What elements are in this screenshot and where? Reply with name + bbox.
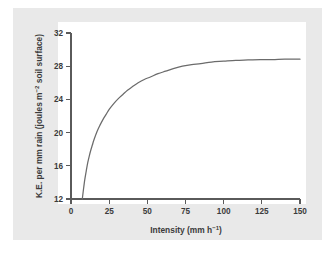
x-tick-label-125: 125 bbox=[255, 207, 269, 216]
y-axis-title: K.E. per mm rain (joules m−2 soil surfac… bbox=[34, 34, 44, 198]
x-tick-label-75: 75 bbox=[181, 207, 191, 216]
x-axis-title-main: Intensity (mm h bbox=[150, 225, 212, 235]
x-tick-label-100: 100 bbox=[217, 207, 231, 216]
y-tick-label-28: 28 bbox=[54, 62, 64, 71]
y-axis-title-part1: K.E. per mm rain (joules m bbox=[34, 92, 44, 198]
y-tick-label-20: 20 bbox=[54, 129, 64, 138]
ke-intensity-curve bbox=[82, 59, 300, 199]
x-axis-title-close: ) bbox=[219, 225, 222, 235]
data-series-group bbox=[82, 59, 300, 199]
x-tick-label-150: 150 bbox=[293, 207, 307, 216]
x-tick-label-25: 25 bbox=[105, 207, 115, 216]
x-axis: 0 25 50 75 100 125 150 bbox=[69, 199, 308, 216]
y-axis: 12 16 20 24 28 32 bbox=[54, 29, 71, 204]
y-tick-label-16: 16 bbox=[54, 162, 64, 171]
y-tick-label-24: 24 bbox=[54, 95, 64, 104]
y-axis-title-group: K.E. per mm rain (joules m−2 soil surfac… bbox=[34, 34, 44, 198]
x-axis-title: Intensity (mm h−1) bbox=[150, 225, 222, 235]
x-axis-title-group: Intensity (mm h−1) bbox=[150, 225, 222, 235]
y-tick-label-12: 12 bbox=[54, 195, 64, 204]
y-axis-title-part2: soil surface) bbox=[34, 34, 44, 86]
chart-svg: 12 16 20 24 28 32 0 25 50 75 100 125 150 bbox=[0, 0, 334, 260]
x-tick-label-50: 50 bbox=[143, 207, 153, 216]
x-tick-label-0: 0 bbox=[69, 207, 74, 216]
figure-root: 12 16 20 24 28 32 0 25 50 75 100 125 150 bbox=[0, 0, 334, 260]
y-tick-label-32: 32 bbox=[54, 29, 64, 38]
